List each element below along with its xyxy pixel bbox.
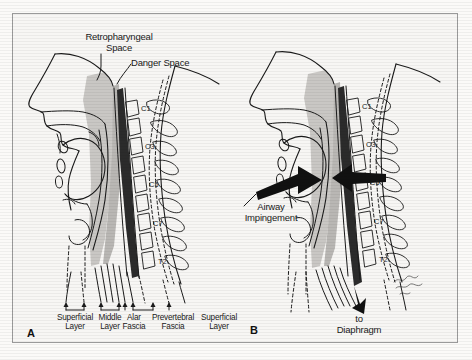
vertebra-label-c1: C1 [141, 104, 151, 113]
oral-detail-b2 [277, 157, 287, 172]
chin-jaw-line [68, 151, 79, 210]
trachea-anterior-b [288, 244, 290, 294]
oral-detail-2 [56, 159, 66, 174]
vertebra-label-t2: T2 [158, 257, 167, 266]
fascia-descending-lines-b [291, 266, 406, 312]
face-profile [29, 54, 79, 151]
vertebra-label-c7: C7 [153, 219, 163, 228]
shoulder-line [175, 66, 219, 84]
figure-container: C1 C3 C5 C7 T2 Retropharyngeal Space Dan… [0, 0, 472, 360]
danger-space-label: Danger Space [131, 58, 217, 69]
oral-detail-3 [55, 176, 63, 189]
panel-a: C1 C3 C5 C7 T2 Retropharyngeal Space Dan… [13, 14, 236, 344]
danger-space-leader [117, 64, 131, 84]
panel-letter-a: A [27, 327, 35, 339]
panel-b-drawing: C1 C3 C5 C7 T2 [236, 14, 459, 344]
airway-impingement-label: Airway Impingement [228, 202, 314, 223]
vertebra-label-c5: C5 [149, 180, 159, 189]
face-profile-b [250, 52, 300, 149]
vertebra-label-c5-b: C5 [370, 178, 380, 187]
retropharyngeal-space-label: Retropharyngeal Space [73, 32, 165, 53]
panel-letter-b: B [250, 324, 258, 336]
vertebra-label-c7-b: C7 [374, 217, 384, 226]
vertebra-label-c1-b: C1 [362, 102, 372, 111]
vertebra-label-c3: C3 [145, 142, 155, 151]
vertebra-label-c3-b: C3 [366, 140, 376, 149]
vertebra-label-t2-b: T2 [379, 255, 388, 264]
bracket-arrowheads [64, 302, 172, 307]
shoulder-line-b [396, 64, 440, 82]
artist-signature [394, 276, 422, 294]
to-diaphragm-label: to Diaphragm [324, 314, 394, 335]
fascia-descending-lines [66, 264, 185, 303]
to-diaphragm-arrow [352, 286, 366, 314]
figure-frame: C1 C3 C5 C7 T2 Retropharyngeal Space Dan… [12, 13, 458, 343]
larynx-outline [69, 219, 90, 244]
panel-b: C1 C3 C5 C7 T2 Airway Impingement to Dia… [236, 14, 459, 344]
